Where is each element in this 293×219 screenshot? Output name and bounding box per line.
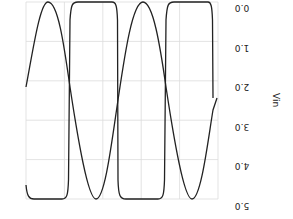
y-tick-2: 2.0 [235, 82, 250, 92]
y-tick-5: 5.0 [235, 201, 250, 211]
square-series-line [26, 2, 213, 199]
y-tick-4: 4.0 [235, 161, 250, 171]
y-axis-ticks: 0.0 1.0 2.0 3.0 4.0 5.0 [235, 3, 250, 211]
y-tick-0: 0.0 [235, 3, 250, 13]
grid [26, 2, 218, 199]
chart: 0.0 1.0 2.0 3.0 4.0 5.0 Vin [0, 0, 293, 219]
y-tick-1: 1.0 [235, 43, 250, 53]
y-axis-label: Vin [271, 93, 281, 107]
y-tick-3: 3.0 [235, 122, 250, 132]
sine-series-line [26, 2, 217, 199]
